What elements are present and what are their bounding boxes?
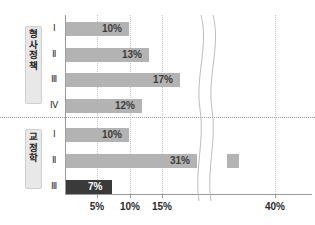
- group-label-criminal-policy: 형 사 정 책: [25, 26, 42, 104]
- category-tick: Ⅱ: [46, 155, 62, 165]
- category-tick: Ⅲ: [46, 181, 62, 191]
- x-axis-tick-label: 40%: [260, 201, 290, 212]
- bar-value-label: 12%: [115, 98, 135, 113]
- category-tick: Ⅳ: [46, 100, 62, 110]
- bar-continuation-segment: [227, 154, 239, 168]
- category-tick: Ⅱ: [46, 49, 62, 59]
- category-tick: Ⅰ: [46, 23, 62, 33]
- category-tick: Ⅰ: [46, 129, 62, 139]
- x-tick-mark: [130, 195, 131, 198]
- plot-area: 10% 13% 17% 12% 10% 31% 7%: [65, 15, 312, 195]
- bar-chart: 형 사 정 책 교 정 학 Ⅰ Ⅱ Ⅲ Ⅳ Ⅰ Ⅱ Ⅲ 10% 13% 17% …: [0, 0, 315, 225]
- group-label-correctional-studies: 교 정 학: [25, 129, 42, 189]
- axis-break-marker: [193, 15, 227, 201]
- x-axis-tick-label: 10%: [115, 201, 145, 212]
- group-separator-line: [0, 117, 315, 118]
- x-axis-tick-label: 15%: [147, 201, 177, 212]
- gridline: [275, 15, 276, 194]
- x-axis-tick-label: 5%: [82, 201, 112, 212]
- x-tick-mark: [162, 195, 163, 198]
- bar-value-label: 17%: [153, 72, 173, 87]
- category-tick: Ⅲ: [46, 74, 62, 84]
- bar-value-label: 10%: [102, 21, 122, 36]
- bar-value-label: 13%: [122, 47, 142, 62]
- bar-value-label: 7%: [88, 179, 102, 194]
- x-tick-mark: [97, 195, 98, 198]
- bar-value-label: 31%: [170, 153, 190, 168]
- bar-value-label: 10%: [102, 127, 122, 142]
- x-tick-mark: [275, 195, 276, 198]
